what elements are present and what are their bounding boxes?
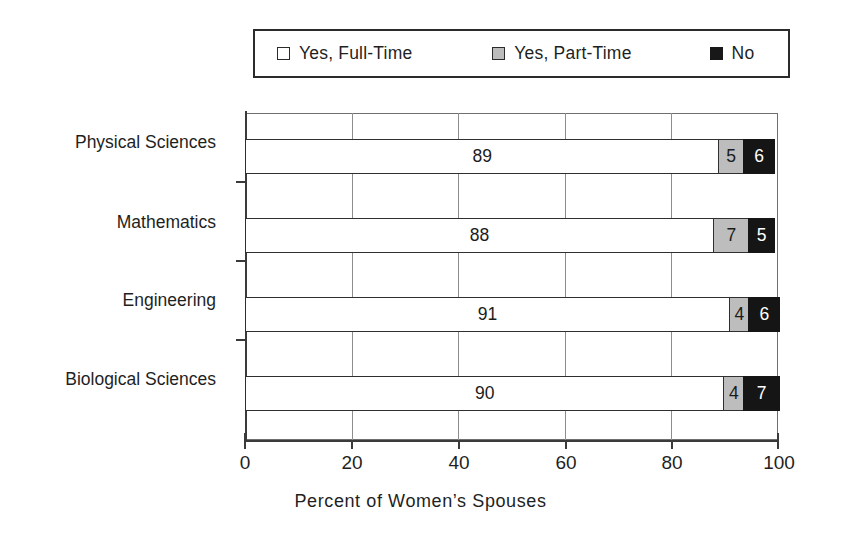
bar-row-engineering[interactable]: 91 4 6 xyxy=(245,297,780,332)
bar-row-biological-sciences[interactable]: 90 4 7 xyxy=(245,376,780,411)
y-axis-label-mathematics: Mathematics xyxy=(117,212,216,233)
legend-label-no: No xyxy=(732,43,755,64)
black-square-icon xyxy=(710,47,723,60)
bar-segment-yes-full-time[interactable]: 90 xyxy=(245,376,725,411)
bar-value-no: 7 xyxy=(757,385,767,403)
bar-value-no: 6 xyxy=(760,306,770,324)
x-axis-tick-20 xyxy=(351,440,353,449)
bar-value-yes-full-time: 88 xyxy=(470,227,489,245)
bar-value-no: 6 xyxy=(754,148,764,166)
chart-plot-area: 89 5 6 88 7 5 91 4 6 90 xyxy=(245,113,778,440)
y-axis-tick-2 xyxy=(236,260,245,262)
x-axis-ticklabel-60: 60 xyxy=(555,452,576,474)
legend-item-no: No xyxy=(710,43,755,64)
y-axis-tick-3 xyxy=(236,339,245,341)
bar-segment-no[interactable]: 6 xyxy=(743,139,775,174)
x-axis-tick-60 xyxy=(565,440,567,449)
legend-label-yes-part-time: Yes, Part-Time xyxy=(514,43,631,64)
bar-value-yes-part-time: 7 xyxy=(726,227,736,245)
gray-square-icon xyxy=(492,47,505,60)
bar-segment-yes-full-time[interactable]: 91 xyxy=(245,297,730,332)
bar-value-yes-full-time: 91 xyxy=(478,306,497,324)
x-axis-ticklabel-100: 100 xyxy=(763,452,795,474)
bar-segment-yes-part-time[interactable]: 5 xyxy=(718,139,745,174)
y-axis-label-engineering: Engineering xyxy=(123,290,216,311)
x-axis-line xyxy=(245,440,779,442)
bar-value-yes-part-time: 5 xyxy=(726,148,736,166)
x-axis-ticklabel-80: 80 xyxy=(661,452,682,474)
bar-row-mathematics[interactable]: 88 7 5 xyxy=(245,218,775,253)
bar-segment-yes-part-time[interactable]: 4 xyxy=(723,376,744,411)
y-axis-label-biological-sciences: Biological Sciences xyxy=(65,369,216,390)
x-axis-ticklabel-40: 40 xyxy=(448,452,469,474)
bar-segment-no[interactable]: 6 xyxy=(748,297,780,332)
x-axis-tick-80 xyxy=(671,440,673,449)
y-axis-tick-1 xyxy=(236,181,245,183)
legend-item-yes-part-time: Yes, Part-Time xyxy=(492,43,631,64)
bar-row-physical-sciences[interactable]: 89 5 6 xyxy=(245,139,775,174)
bar-segment-no[interactable]: 7 xyxy=(743,376,780,411)
bar-value-yes-part-time: 4 xyxy=(729,385,739,403)
bar-value-yes-full-time: 89 xyxy=(472,148,491,166)
x-axis-ticklabel-20: 20 xyxy=(341,452,362,474)
plot-top-border xyxy=(245,113,778,114)
y-axis-category-labels: Physical Sciences Mathematics Engineerin… xyxy=(0,113,230,440)
bar-value-yes-full-time: 90 xyxy=(475,385,494,403)
bar-segment-no[interactable]: 5 xyxy=(748,218,775,253)
bar-value-yes-part-time: 4 xyxy=(734,306,744,324)
x-axis-tick-100-b xyxy=(777,440,779,449)
y-axis-label-physical-sciences: Physical Sciences xyxy=(75,132,216,153)
bar-value-no: 5 xyxy=(757,227,767,245)
bar-segment-yes-part-time[interactable]: 7 xyxy=(713,218,750,253)
x-axis-tick-0-b xyxy=(244,440,246,449)
legend-label-yes-full-time: Yes, Full-Time xyxy=(299,43,412,64)
bar-segment-yes-full-time[interactable]: 89 xyxy=(245,139,719,174)
white-square-icon xyxy=(277,47,290,60)
legend-item-yes-full-time: Yes, Full-Time xyxy=(277,43,412,64)
x-axis-tick-40 xyxy=(458,440,460,449)
x-axis-title: Percent of Women’s Spouses xyxy=(0,491,841,512)
bar-segment-yes-part-time[interactable]: 4 xyxy=(729,297,750,332)
chart-legend: Yes, Full-Time Yes, Part-Time No xyxy=(253,29,790,78)
x-axis-ticklabel-0: 0 xyxy=(240,452,251,474)
bar-segment-yes-full-time[interactable]: 88 xyxy=(245,218,714,253)
